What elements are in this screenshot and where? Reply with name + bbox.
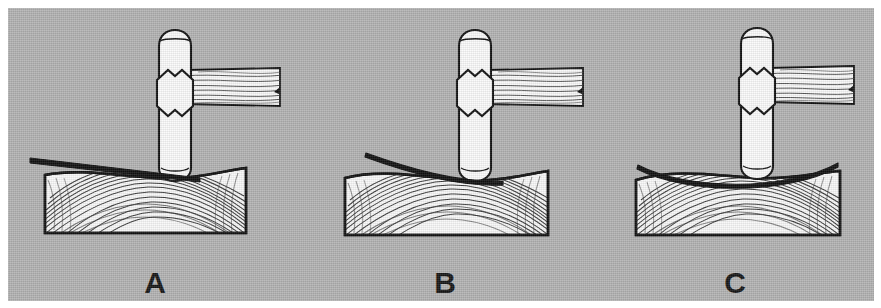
illustration-plate: A (8, 8, 874, 301)
mallet-a (157, 30, 284, 181)
figure-root: A (0, 0, 881, 308)
panel-a: A (8, 8, 302, 301)
panel-caption-c: C (588, 268, 881, 298)
panel-caption-a: A (8, 268, 302, 298)
mallet-b (457, 30, 587, 181)
wood-block-b (324, 168, 572, 276)
panel-b: B (298, 8, 592, 301)
mallet-c (739, 28, 858, 179)
panel-c-drawing (588, 8, 881, 301)
panel-c: C (588, 8, 881, 301)
wood-block-a (24, 166, 270, 276)
panel-a-drawing (8, 8, 302, 301)
panel-b-drawing (298, 8, 592, 301)
panel-caption-b: B (298, 268, 592, 298)
